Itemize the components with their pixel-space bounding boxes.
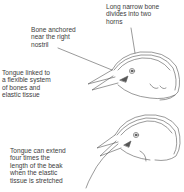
woodpecker-illustration	[0, 0, 184, 192]
leader-line-bone-anchored	[58, 48, 112, 70]
leader-line-long-bone	[131, 28, 135, 53]
bird-head-retracted	[88, 52, 180, 100]
extended-tongue	[86, 144, 118, 188]
bird-head-extended	[86, 115, 180, 188]
